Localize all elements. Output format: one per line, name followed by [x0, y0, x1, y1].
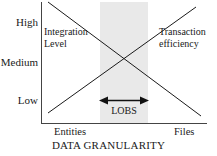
series-label-transaction-efficiency-line2: efficiency [159, 38, 206, 50]
series-label-transaction-efficiency: Transaction efficiency [159, 26, 206, 49]
x-axis-tick-entities: Entities [54, 126, 86, 137]
series-label-transaction-efficiency-line1: Transaction [159, 26, 206, 38]
x-axis-title: DATA GRANULARITY [0, 140, 217, 152]
lobs-band-label: LOBS [100, 106, 148, 117]
series-label-integration-level: Integration Level [44, 26, 88, 49]
y-axis-tick-medium: Medium [0, 57, 38, 69]
series-label-integration-level-line1: Integration [44, 26, 88, 38]
x-axis-tick-files: Files [174, 126, 194, 137]
y-axis-tick-low: Low [2, 95, 38, 107]
granularity-tradeoff-diagram: High Medium Low Integration Level Transa… [0, 0, 217, 156]
y-axis-tick-high: High [2, 17, 38, 29]
series-label-integration-level-line2: Level [44, 38, 88, 50]
